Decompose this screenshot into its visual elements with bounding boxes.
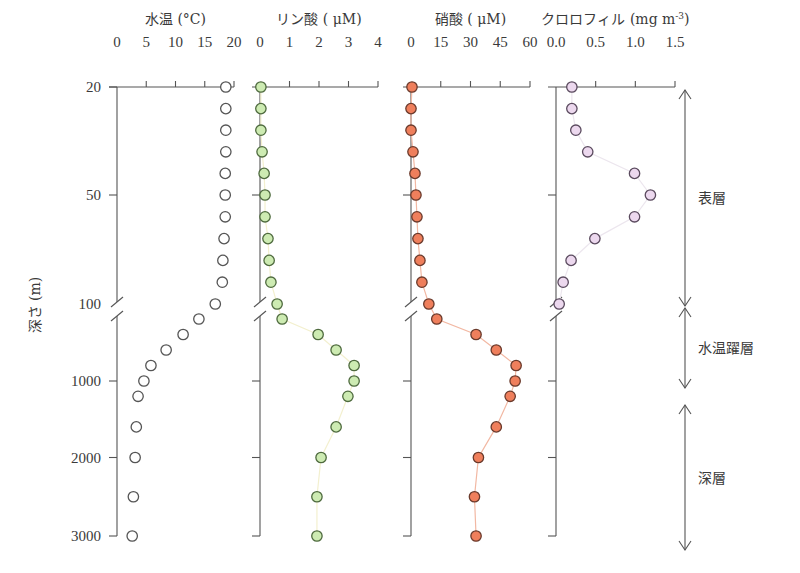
data-point: [127, 531, 137, 541]
x-tick-label: 0.0: [547, 34, 566, 50]
data-point: [260, 212, 270, 222]
data-point: [349, 360, 359, 370]
x-tick-label: 0: [407, 34, 415, 50]
data-point: [331, 345, 341, 355]
data-point: [219, 233, 229, 243]
layer-label: 水温躍層: [698, 340, 754, 356]
data-point: [566, 255, 576, 265]
y-tick-label: 1000: [71, 373, 101, 389]
data-point: [312, 492, 322, 502]
surface-layer-indicator: 表層: [679, 90, 726, 306]
data-point: [312, 531, 322, 541]
x-tick-label: 10: [168, 34, 183, 50]
data-point: [411, 190, 421, 200]
data-point: [645, 190, 655, 200]
y-tick-label: 3000: [71, 528, 101, 544]
data-point: [263, 233, 273, 243]
x-tick-label: 1.5: [666, 34, 685, 50]
panel-phosphate: リン酸 ( μM)01234: [252, 11, 382, 541]
panel-title: 水温 (°C): [145, 11, 206, 27]
data-point: [412, 212, 422, 222]
data-point: [469, 492, 479, 502]
data-point: [218, 255, 228, 265]
x-tick-label: 1: [286, 34, 294, 50]
data-point: [407, 82, 417, 92]
series-line: [411, 87, 516, 536]
data-point: [178, 329, 188, 339]
data-point: [161, 345, 171, 355]
data-point: [313, 329, 323, 339]
ocean-profile-chart: 水温 (°C)05101520リン酸 ( μM)01234硝酸 ( μM)015…: [0, 0, 800, 573]
y-tick-label: 50: [86, 187, 101, 203]
y-axis-label: 深さ (m): [27, 277, 43, 334]
data-point: [415, 255, 425, 265]
y-tick-label: 2000: [71, 450, 101, 466]
thermocline-indicator: 水温躍層: [679, 308, 754, 388]
data-point: [194, 314, 204, 324]
x-tick-label: 20: [227, 34, 242, 50]
x-tick-label: 45: [493, 34, 508, 50]
panel-chlorophyll: クロロフィル (mg m-3)0.00.51.01.5: [541, 11, 689, 536]
data-point: [260, 190, 270, 200]
data-point: [567, 82, 577, 92]
data-point: [131, 422, 141, 432]
data-point: [417, 277, 427, 287]
x-tick-label: 1.0: [626, 34, 645, 50]
x-tick-label: 15: [197, 34, 212, 50]
data-point: [264, 255, 274, 265]
data-point: [331, 422, 341, 432]
y-tick-label: 20: [86, 79, 101, 95]
y-tick-label: 100: [79, 296, 102, 312]
data-point: [220, 190, 230, 200]
data-point: [316, 452, 326, 462]
data-point: [583, 147, 593, 157]
data-point: [146, 360, 156, 370]
x-tick-label: 0.5: [586, 34, 605, 50]
data-point: [220, 212, 230, 222]
data-point: [558, 277, 568, 287]
data-point: [220, 168, 230, 178]
data-point: [567, 103, 577, 113]
panel-title: クロロフィル (mg m-3): [541, 11, 689, 27]
data-point: [217, 277, 227, 287]
x-tick-label: 30: [463, 34, 478, 50]
data-point: [406, 125, 416, 135]
x-tick-label: 5: [143, 34, 151, 50]
data-point: [510, 376, 520, 386]
data-point: [413, 233, 423, 243]
data-point: [221, 82, 231, 92]
x-tick-label: 60: [523, 34, 538, 50]
data-point: [590, 233, 600, 243]
data-point: [266, 277, 276, 287]
data-point: [491, 345, 501, 355]
x-tick-label: 0: [256, 34, 264, 50]
layer-label: 表層: [698, 190, 726, 206]
data-point: [277, 314, 287, 324]
data-point: [629, 212, 639, 222]
data-point: [343, 391, 353, 401]
x-tick-label: 2: [315, 34, 323, 50]
data-point: [410, 168, 420, 178]
data-point: [272, 299, 282, 309]
panel-title: 硝酸 ( μM): [435, 11, 506, 27]
x-tick-label: 3: [345, 34, 353, 50]
data-point: [491, 422, 501, 432]
data-point: [406, 103, 416, 113]
x-tick-label: 0: [113, 34, 121, 50]
data-point: [221, 103, 231, 113]
data-point: [139, 376, 149, 386]
data-point: [554, 299, 564, 309]
data-point: [257, 147, 267, 157]
data-point: [408, 147, 418, 157]
panel-water-temperature: 水温 (°C)05101520: [109, 11, 242, 541]
data-point: [473, 452, 483, 462]
data-point: [259, 168, 269, 178]
data-point: [471, 531, 481, 541]
x-tick-label: 4: [374, 34, 382, 50]
panel-nitrate: 硝酸 ( μM)015304560: [403, 11, 538, 541]
data-point: [256, 82, 266, 92]
data-point: [571, 125, 581, 135]
data-point: [505, 391, 515, 401]
data-point: [130, 452, 140, 462]
data-point: [349, 376, 359, 386]
